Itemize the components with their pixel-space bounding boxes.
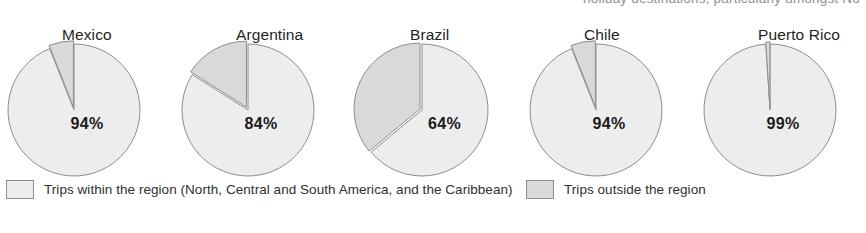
pie-chart-brazil: Brazil64% <box>348 0 522 180</box>
legend-swatch-inside-region <box>6 180 34 199</box>
pie-chart-argentina: Argentina84% <box>174 0 348 180</box>
legend-swatch-outside-region <box>526 180 554 199</box>
pie-chart-puerto-rico: Puerto Rico99% <box>696 0 866 180</box>
pie-value-chile: 94% <box>522 115 696 133</box>
pie-chart-mexico: Mexico94% <box>0 0 174 180</box>
legend-label-inside-region: Trips within the region (North, Central … <box>44 182 513 197</box>
pie-chart-group: Mexico94%Argentina84%Brazil64%Chile94%Pu… <box>0 0 866 180</box>
pie-chart-chile: Chile94% <box>522 0 696 180</box>
pie-title-puerto-rico: Puerto Rico <box>758 26 866 44</box>
chart-legend: Trips within the region (North, Central … <box>0 178 866 208</box>
pie-value-brazil: 64% <box>348 115 522 133</box>
pie-value-argentina: 84% <box>174 115 348 133</box>
legend-label-outside-region: Trips outside the region <box>564 182 706 197</box>
legend-item-outside-region: Trips outside the region <box>526 180 706 199</box>
pie-value-mexico: 94% <box>0 115 174 133</box>
pie-value-puerto-rico: 99% <box>696 115 866 133</box>
pie-slice-inside-region <box>530 44 662 176</box>
legend-item-inside-region: Trips within the region (North, Central … <box>6 180 513 199</box>
pie-slice-inside-region <box>8 44 140 176</box>
